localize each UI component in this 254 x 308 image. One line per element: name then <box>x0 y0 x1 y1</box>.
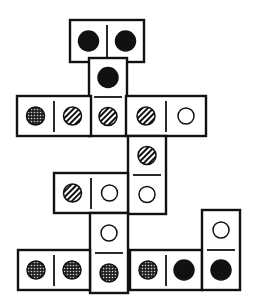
black-pip-icon <box>116 31 136 51</box>
domino-tile <box>89 58 127 136</box>
empty-pip-icon <box>139 187 155 203</box>
domino-tile <box>202 210 240 290</box>
striped-pip-icon <box>64 184 82 202</box>
domino-tile <box>126 96 206 136</box>
black-pip-icon <box>79 31 99 51</box>
domino-tile <box>17 96 91 136</box>
domino-tile <box>18 250 90 290</box>
domino-tile <box>70 20 144 62</box>
domino-tile <box>90 213 128 293</box>
empty-pip-icon <box>102 185 118 201</box>
empty-pip-icon <box>101 225 117 241</box>
domino-tile <box>130 250 202 290</box>
black-pip-icon <box>211 260 231 280</box>
dotted-pip-icon <box>27 107 45 125</box>
striped-pip-icon <box>138 147 156 165</box>
dotted-pip-icon <box>63 261 81 279</box>
striped-pip-icon <box>137 107 155 125</box>
domino-diagram <box>0 0 254 308</box>
striped-pip-icon <box>64 107 82 125</box>
empty-pip-icon <box>213 222 229 238</box>
dotted-pip-icon <box>27 261 45 279</box>
dotted-pip-icon <box>100 264 118 282</box>
tiles-layer <box>17 20 240 293</box>
black-pip-icon <box>98 68 118 88</box>
black-pip-icon <box>174 260 194 280</box>
domino-tile <box>54 173 128 213</box>
dotted-pip-icon <box>139 261 157 279</box>
striped-pip-icon <box>99 108 117 126</box>
empty-pip-icon <box>178 108 194 124</box>
domino-canvas <box>0 0 254 308</box>
domino-tile <box>128 136 166 214</box>
